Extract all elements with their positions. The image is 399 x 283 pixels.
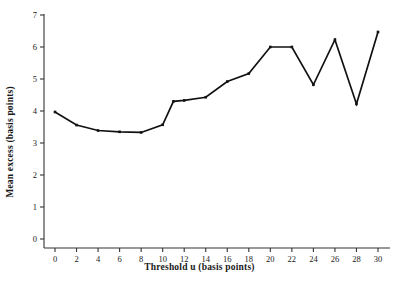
data-point-marker [226,80,229,83]
data-point-marker [183,99,186,102]
y-axis-title: Mean excess (basis points) [5,62,15,222]
data-point-marker [312,83,315,86]
data-point-marker [248,72,251,75]
y-tick-label: 0 [33,234,37,244]
data-point-marker [172,100,175,103]
data-point-marker [140,131,143,134]
y-tick-label: 2 [33,170,37,180]
y-tick-label: 1 [33,202,37,212]
y-tick-label: 7 [33,10,37,20]
data-point-marker [377,31,380,34]
plot-area: 01234567024681012141618202224262830 [0,0,399,283]
data-point-marker [54,111,57,114]
mean-excess-plot: 01234567024681012141618202224262830 Mean… [0,0,399,283]
data-point-marker [75,124,78,127]
data-point-marker [204,96,207,99]
data-point-marker [291,46,294,49]
data-point-marker [355,103,358,106]
x-axis-title: Threshold u (basis points) [0,262,399,272]
data-point-marker [118,131,121,134]
data-point-marker [334,38,337,41]
data-point-marker [161,123,164,126]
data-series-line [55,32,378,132]
y-tick-label: 4 [33,106,38,116]
y-tick-label: 5 [33,74,37,84]
data-point-marker [97,129,100,132]
data-point-marker [269,46,272,49]
y-tick-label: 3 [33,138,37,148]
y-tick-label: 6 [33,42,37,52]
